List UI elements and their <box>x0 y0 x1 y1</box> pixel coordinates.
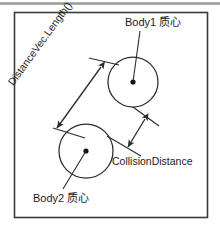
body2-label: Body2 质心 <box>33 192 89 204</box>
body1-label: Body1 质心 <box>125 16 181 28</box>
figure-container: Body1 质心 Body2 质心 CollisionDistance Dist… <box>0 0 220 229</box>
collision-distance-label: CollisionDistance <box>112 155 193 167</box>
